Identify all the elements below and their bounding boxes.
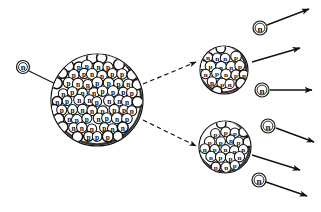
- nucleon-label: n: [229, 137, 233, 145]
- emitted-neutron-3-arrow: [276, 128, 314, 142]
- nucleon-label: p: [110, 70, 114, 79]
- fragment-momentum-arrow-lower: [252, 155, 300, 170]
- nucleon-label: n: [115, 115, 119, 124]
- nucleon-label: p: [105, 114, 109, 123]
- fragment-nucleus-upper-nucleons: nnnppnnpnpnppnpn: [198, 44, 248, 96]
- nucleon: [216, 44, 225, 53]
- nucleon-label: p: [106, 133, 110, 142]
- emitted-neutron-2-label: n: [259, 86, 264, 96]
- emitted-neutron-1: n: [253, 21, 267, 35]
- nucleon-label: n: [224, 164, 228, 172]
- nucleon-label: n: [87, 96, 91, 105]
- nucleon-label: n: [204, 71, 208, 79]
- nucleon-label: n: [80, 124, 84, 133]
- nucleon-label: p: [215, 70, 219, 78]
- fragment-momentum-arrow-upper: [252, 48, 300, 62]
- nucleon-label: p: [224, 129, 228, 137]
- nucleon-label: p: [65, 97, 69, 106]
- nucleon-label: n: [209, 154, 213, 162]
- nucleon-label: p: [95, 98, 99, 107]
- nucleon-label: p: [219, 154, 223, 162]
- nucleon-label: n: [228, 81, 232, 89]
- emitted-neutron-4-arrow: [266, 182, 307, 196]
- nucleon-label: p: [234, 54, 238, 62]
- nucleon-label: n: [90, 70, 94, 79]
- fragment-nuclei-group: nnnppnnpnpnppnpnpppppnpnpnnnnppnpnp: [198, 44, 253, 173]
- nucleon-label: p: [95, 79, 99, 88]
- nucleon-label: p: [70, 106, 74, 115]
- nucleon-label: p: [85, 115, 89, 124]
- nucleon-label: p: [70, 88, 74, 97]
- incident-neutron-label: n: [21, 62, 26, 72]
- nucleon-label: n: [77, 96, 81, 105]
- emitted-neutron-1-arrow: [267, 9, 309, 25]
- nucleon-label: p: [100, 87, 104, 96]
- nucleon-label: p: [67, 79, 71, 88]
- emitted-neutron-4-label: n: [256, 176, 261, 186]
- fission-diagram-svg: n ppnpppnppppnnpppnnpnnppppnpnnpnnnppnnp…: [0, 0, 321, 212]
- nucleon-label: n: [238, 154, 242, 162]
- fragment-momentum-arrows-group: [252, 48, 300, 170]
- emitted-neutron-1-label: n: [257, 24, 262, 34]
- emitted-neutron-4: n: [252, 173, 266, 187]
- fission-path-upper: [143, 62, 196, 84]
- emitted-neutron-3: n: [261, 119, 275, 133]
- emitted-neutron-2: n: [255, 83, 269, 97]
- fission-path-lower: [143, 120, 196, 146]
- nucleon-label: n: [67, 115, 71, 124]
- nucleon-label: n: [76, 80, 80, 89]
- nucleon-label: p: [238, 63, 242, 71]
- incident-neutron: n: [17, 61, 30, 74]
- nucleon-label: p: [233, 162, 237, 170]
- nucleon-label: n: [107, 97, 111, 106]
- emitted-neutrons-group: nnnn: [252, 9, 314, 196]
- parent-nucleus-group: ppnpppnppppnnpppnnpnnppppnpnnpnnnppnnppp…: [48, 51, 143, 146]
- nucleon-label: n: [121, 124, 125, 133]
- nucleon-label: n: [80, 106, 84, 115]
- nucleon-label: p: [120, 70, 124, 79]
- nucleon-label: n: [86, 81, 90, 90]
- nucleon-label: p: [82, 70, 86, 79]
- nucleon-label: p: [95, 133, 99, 142]
- nucleon-label: n: [224, 71, 228, 79]
- fission-paths-group: [143, 62, 196, 146]
- nucleon-label: p: [213, 131, 217, 139]
- emitted-neutron-3-label: n: [265, 122, 270, 132]
- nucleon-label: n: [210, 79, 214, 87]
- nucleon-label: n: [117, 97, 121, 106]
- fission-diagram-canvas: n ppnpppnppppnnpppnnpnnppppnpnnpnnnppnnp…: [0, 0, 321, 212]
- nucleon-label: n: [203, 146, 207, 154]
- nucleon-label: p: [86, 133, 90, 142]
- nucleon-label: n: [97, 115, 101, 124]
